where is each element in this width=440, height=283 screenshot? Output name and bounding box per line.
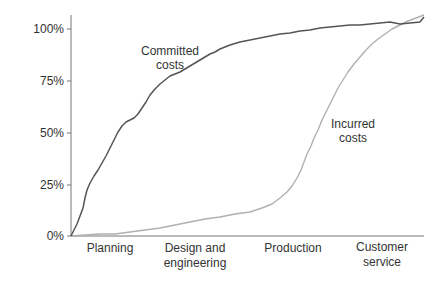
x-category-line1: Planning [70,241,150,256]
x-category-line2: engineering [145,256,245,271]
annotation-line1: Committed [125,44,215,58]
y-tick-label-0: 0% [24,229,64,243]
annotation-line1: Incurred [318,117,388,131]
y-tick-marks [67,29,71,236]
life-cycle-cost-chart: 100% 75% 50% 25% 0% Percentage of life c… [0,0,440,283]
y-tick-label-50: 50% [24,126,64,140]
x-category-planning: Planning [70,241,150,256]
x-category-line1: Customer [342,240,422,255]
y-tick-label-100: 100% [24,22,64,36]
x-category-production: Production [248,241,338,256]
y-tick-label-25: 25% [24,178,64,192]
incurred-costs-annotation: Incurred costs [318,117,388,145]
x-category-line1: Production [248,241,338,256]
x-category-design-engineering: Design and engineering [145,241,245,271]
y-tick-label-75: 75% [24,74,64,88]
x-category-line2: service [342,255,422,270]
x-category-customer-service: Customer service [342,240,422,270]
annotation-line2: costs [318,131,388,145]
x-category-line1: Design and [145,241,245,256]
annotation-line2: costs [125,58,215,72]
committed-costs-annotation: Committed costs [125,44,215,72]
